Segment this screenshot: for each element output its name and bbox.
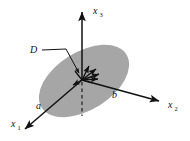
region-d-label: D: [29, 44, 38, 55]
axis-x2-label-subscript: 2: [175, 105, 178, 112]
axis-x3-label: x 3: [92, 5, 103, 18]
axis-x3-label-base: x: [92, 5, 98, 16]
origin-vector-3: [82, 79, 98, 80]
axis-x1-label: x 1: [10, 118, 21, 131]
axis-x3-label-subscript: 3: [100, 11, 103, 18]
axis-x2-label: x 2: [167, 99, 178, 112]
axis-x1-label-base: x: [10, 118, 16, 129]
figure-container: D a b x 3 x 2 x 1: [0, 0, 190, 141]
vector-figure: D a b x 3 x 2 x 1: [0, 0, 190, 141]
axis-x2-label-base: x: [167, 99, 173, 110]
vector-b-label: b: [112, 89, 117, 100]
vector-a-label: a: [36, 100, 41, 111]
axis-x1-label-subscript: 1: [18, 124, 21, 131]
